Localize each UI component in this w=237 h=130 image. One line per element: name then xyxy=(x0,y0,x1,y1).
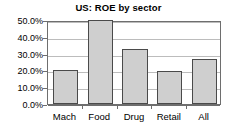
y-tick-label: 10.0% xyxy=(0,84,43,93)
x-tick-mark xyxy=(186,105,187,109)
x-tick-mark xyxy=(82,105,83,109)
x-tick-label-mach: Mach xyxy=(53,110,76,123)
x-tick-label-food: Food xyxy=(88,110,110,123)
chart-container: US: ROE by sector 0.0%10.0%20.0%30.0%40.… xyxy=(0,0,237,130)
bars-layer xyxy=(48,22,220,104)
bar-all xyxy=(192,59,217,104)
x-tick-mark xyxy=(151,105,152,109)
plot-area xyxy=(47,21,221,105)
x-tick-label-all: All xyxy=(198,110,209,123)
y-tick-label: 20.0% xyxy=(0,67,43,76)
x-tick-mark xyxy=(117,105,118,109)
bar-food xyxy=(88,20,113,104)
chart-title: US: ROE by sector xyxy=(0,2,237,14)
bar-mach xyxy=(53,70,78,104)
y-tick-label: 30.0% xyxy=(0,50,43,59)
x-tick-label-drug: Drug xyxy=(124,110,145,123)
x-axis: MachFoodDrugRetailAll xyxy=(47,110,221,126)
y-tick-label: 50.0% xyxy=(0,17,43,26)
y-axis: 0.0%10.0%20.0%30.0%40.0%50.0% xyxy=(0,21,43,105)
y-tick-label: 0.0% xyxy=(0,101,43,110)
bar-retail xyxy=(157,71,182,104)
bar-drug xyxy=(122,49,147,104)
x-tick-label-retail: Retail xyxy=(157,110,181,123)
y-tick-label: 40.0% xyxy=(0,33,43,42)
